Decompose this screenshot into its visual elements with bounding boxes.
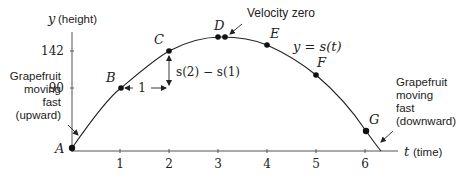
curve-label: y = s(t)	[292, 39, 342, 54]
y-axis-label: y (height)	[47, 11, 97, 26]
downward-annotation: Grapefruit moving fast (downward)	[381, 76, 456, 142]
x-tick-label: 1	[116, 157, 124, 171]
svg-text:(time): (time)	[413, 146, 443, 158]
point-b	[118, 85, 124, 91]
svg-text:moving: moving	[24, 83, 61, 95]
delta-s-annotation: s(2) − s(1)	[169, 56, 240, 85]
svg-text:fast: fast	[396, 102, 415, 114]
svg-text:Grapefruit: Grapefruit	[10, 70, 62, 82]
label-g: G	[369, 112, 379, 127]
point-a	[69, 145, 75, 151]
svg-text:Grapefruit: Grapefruit	[396, 76, 448, 88]
delta-s-label: s(2) − s(1)	[176, 65, 240, 79]
y-tick-label: 142	[41, 44, 64, 58]
label-a: A	[54, 141, 64, 156]
label-c: C	[154, 32, 164, 47]
x-ticks: 1 2 3 4 5 6	[116, 149, 369, 171]
x-tick-label: 6	[361, 157, 369, 171]
x-tick-label: 5	[312, 157, 320, 171]
upward-annotation: Grapefruit moving fast (upward)	[10, 70, 78, 135]
svg-text:fast: fast	[42, 96, 61, 108]
x-tick-label: 2	[165, 157, 173, 171]
position-time-diagram: 142 90 1 2 3 4 5 6 y (height) t (time)	[0, 0, 461, 179]
y-tick-142: 142	[41, 44, 74, 58]
point-d-left	[215, 34, 221, 40]
trajectory-curve	[72, 37, 381, 151]
label-e: E	[269, 26, 280, 41]
label-d: D	[213, 18, 225, 33]
point-f	[313, 72, 319, 78]
velocity-zero-label: Velocity zero	[247, 6, 315, 20]
svg-text:(downward): (downward)	[396, 115, 456, 127]
point-c	[166, 48, 172, 54]
svg-text:t: t	[404, 144, 410, 159]
x-tick-label: 4	[263, 157, 271, 171]
svg-text:(upward): (upward)	[16, 109, 62, 121]
point-e	[264, 42, 270, 48]
point-g	[363, 128, 369, 134]
label-f: F	[316, 55, 327, 70]
svg-text:(height): (height)	[58, 13, 97, 25]
svg-text:moving: moving	[396, 89, 433, 101]
label-b: B	[105, 70, 116, 85]
point-d-right	[222, 34, 228, 40]
svg-text:y: y	[47, 11, 56, 26]
x-axis-label: t (time)	[404, 144, 443, 159]
delta-t-label: 1	[138, 81, 146, 95]
x-tick-label: 3	[214, 157, 222, 171]
delta-t-annotation: 1	[125, 81, 166, 95]
